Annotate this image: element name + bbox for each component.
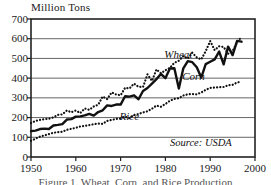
y-tick-label: 200 [0,112,28,123]
series-label-rice: Rice [119,111,139,122]
figure-caption: Figure 1. Wheat, Corn, and Rice Producti… [0,177,271,185]
x-tick-label: 1970 [101,163,141,174]
series-label-wheat: Wheat [164,49,192,60]
chart-figure: Million Tons 0100200300400500600700 1950… [0,0,271,185]
x-tick-label: 1990 [190,163,230,174]
x-tick-label: 1960 [56,163,96,174]
plot-canvas [0,0,271,185]
y-tick-label: 300 [0,92,28,103]
x-tick-label: 2000 [235,163,271,174]
source-note: Source: USDA [170,137,232,148]
x-tick-label: 1980 [145,163,185,174]
y-tick-label: 700 [0,14,28,25]
series-label-corn: Corn [182,71,205,82]
x-tick-label: 1950 [11,163,51,174]
y-tick-label: 600 [0,33,28,44]
y-tick-label: 0 [0,152,28,163]
y-tick-label: 400 [0,73,28,84]
y-tick-label: 500 [0,53,28,64]
y-tick-label: 100 [0,132,28,143]
series-paths [31,37,242,141]
